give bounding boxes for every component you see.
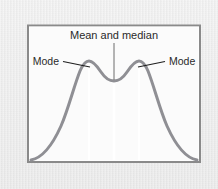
chart-title: Mean and median [70, 29, 158, 41]
distribution-chart: Mean and median Mode Mode [0, 0, 218, 189]
bimodal-distribution-figure: Mean and median Mode Mode [0, 0, 218, 189]
right-mode-label: Mode [169, 55, 195, 67]
left-mode-label: Mode [33, 55, 59, 67]
